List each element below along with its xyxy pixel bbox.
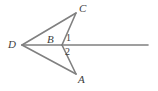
vertex-label-b: B	[47, 34, 54, 45]
angle-label-1: 1	[66, 33, 71, 43]
vertex-label-d: D	[8, 39, 16, 50]
geometry-figure: D B C A 1 2	[0, 0, 158, 91]
vertex-label-a: A	[78, 74, 85, 85]
angle-label-2: 2	[65, 47, 70, 57]
segments-group	[22, 13, 148, 74]
vertex-label-c: C	[79, 3, 86, 14]
